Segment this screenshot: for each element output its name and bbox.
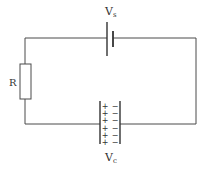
- circuit-svg: Vs R + + + + + + − − − − − − Vc: [0, 0, 210, 171]
- resistor-symbol: [20, 64, 31, 99]
- rc-circuit-diagram: Vs R + + + + + + − − − − − − Vc: [0, 0, 210, 171]
- capacitor-positive-charges: + + + + + +: [102, 102, 109, 147]
- plus-sign: +: [102, 138, 109, 147]
- circuit-wires: [25, 38, 196, 124]
- capacitor-negative-charges: − − − − − −: [112, 102, 119, 147]
- capacitor-label: Vc: [104, 151, 117, 165]
- battery-label: Vs: [104, 5, 117, 19]
- minus-sign: −: [112, 138, 119, 147]
- resistor-label: R: [9, 77, 17, 88]
- battery-symbol: [107, 22, 113, 56]
